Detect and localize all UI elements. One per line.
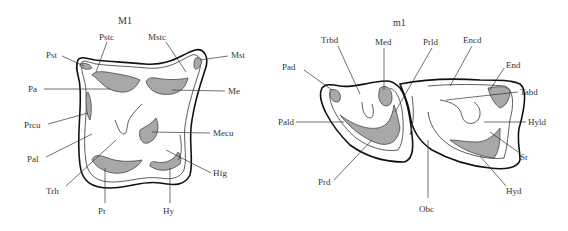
label-Pst: Pst — [46, 50, 58, 60]
label-Hyld: Hyld — [528, 117, 547, 127]
label-Me: Me — [228, 86, 240, 96]
lower-molar-figure: m1 Trbd Med Prld E — [278, 17, 547, 214]
leader-Pad — [304, 70, 332, 90]
label-Tabd: Tabd — [520, 87, 538, 97]
label-Prld: Prld — [423, 37, 439, 47]
label-Hyd: Hyd — [506, 186, 522, 196]
label-Prcu: Prcu — [24, 120, 41, 130]
label-Sr: Sr — [520, 152, 528, 162]
figure-title-M1: M1 — [118, 15, 132, 26]
dental-morphology-diagram: M1 Pstc Mstc Pst Mst Pa — [0, 0, 568, 231]
label-Med: Med — [375, 37, 392, 47]
label-Pad: Pad — [282, 62, 296, 72]
label-Mecu: Mecu — [213, 128, 234, 138]
label-Pald: Pald — [278, 117, 295, 127]
label-Hfg: Hfg — [213, 168, 227, 178]
label-Encd: Encd — [463, 35, 482, 45]
figure-title-m1: m1 — [393, 17, 406, 28]
label-Pa: Pa — [28, 84, 37, 94]
label-Trbd: Trbd — [321, 35, 339, 45]
label-Pstc: Pstc — [99, 32, 114, 42]
label-Hy: Hy — [163, 206, 174, 216]
label-Mstc: Mstc — [148, 32, 166, 42]
label-Obc: Obc — [419, 204, 434, 214]
label-Pr: Pr — [98, 206, 106, 216]
label-Pal: Pal — [27, 154, 39, 164]
label-Trh: Trh — [46, 186, 59, 196]
label-Prd: Prd — [318, 177, 331, 187]
label-Mst: Mst — [231, 50, 246, 60]
label-End: End — [506, 60, 521, 70]
m1-upper-crown-outline — [77, 50, 207, 188]
upper-molar-figure: M1 Pstc Mstc Pst Mst Pa — [24, 15, 246, 216]
